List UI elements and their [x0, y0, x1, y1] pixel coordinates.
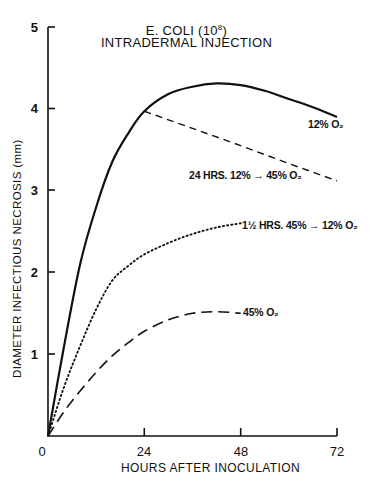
y-axis-label: DIAMETER INFECTIOUS NECROSIS (mm): [11, 139, 23, 378]
series-line-dotted: [48, 223, 241, 436]
curve-label-1-5hrs-switch: 1½ HRS. 45% → 12% O₂: [242, 219, 358, 231]
y-tick-label-5: 5: [24, 20, 38, 35]
series-line-long-dashed: [48, 312, 241, 436]
y-tick-label-1: 1: [24, 347, 38, 362]
curve-label-24hrs-switch: 24 HRS. 12% → 45% O₂: [189, 169, 302, 181]
chart-subtitle: INTRADERMAL INJECTION: [0, 35, 278, 50]
curve-label-12-percent: 12% O₂: [308, 118, 344, 130]
x-tick-label-48: 48: [226, 444, 256, 459]
y-tick-label-2: 2: [24, 265, 38, 280]
x-tick-label-24: 24: [129, 444, 159, 459]
curve-label-45-percent: 45% O₂: [243, 306, 279, 318]
x-axis-label: HOURS AFTER INOCULATION: [0, 461, 373, 475]
figure-caption-cutoff: [0, 476, 373, 484]
y-tick-label-4: 4: [24, 101, 38, 116]
chart-plot-area: [0, 0, 373, 484]
x-tick-label-72: 72: [322, 444, 352, 459]
x-tick-label-0: 0: [27, 444, 57, 459]
y-tick-label-3: 3: [24, 183, 38, 198]
series-line-solid: [48, 83, 337, 436]
